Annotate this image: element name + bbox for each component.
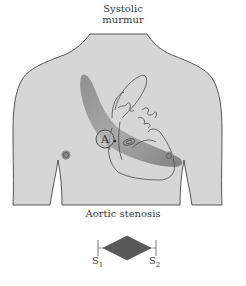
nipple-icon bbox=[62, 151, 71, 160]
phonocardiogram bbox=[98, 236, 156, 260]
crescendo-decrescendo-diamond bbox=[103, 236, 151, 260]
caption-aortic-stenosis: Aortic stenosis bbox=[0, 208, 246, 219]
chest-diagram: A bbox=[0, 0, 246, 286]
s2-label: S2 bbox=[149, 255, 160, 269]
s1-label: S1 bbox=[92, 255, 103, 269]
aortic-area-label: A bbox=[100, 133, 110, 146]
torso-silhouette bbox=[13, 34, 222, 205]
nipple-icon bbox=[165, 152, 174, 161]
